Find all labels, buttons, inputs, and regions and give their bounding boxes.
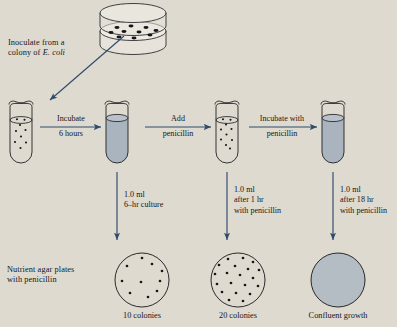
step-label-add-line2: penicillin (147, 129, 209, 139)
step-sublabel-incubate-penicillin: penicillin (249, 129, 315, 139)
sample-label-1hr: 1.0 ml after 1 hr with penicillin (234, 185, 281, 216)
step-label-incubate-line1: Incubate (43, 114, 99, 124)
inoculate-label-line1: Inoculate from a (8, 38, 65, 48)
step-label-add-line1: Add (147, 114, 209, 124)
plate-caption-confluent: Confluent growth (288, 311, 388, 320)
step-label-incpen-line2: penicillin (249, 129, 315, 139)
inoculate-label-line2: colony of E. coli (8, 48, 65, 58)
step-label-incpen-line1: Incubate with (249, 114, 315, 124)
step-sublabel-add-penicillin: penicillin (147, 129, 209, 139)
inoculate-label: Inoculate from a colony of E. coli (8, 38, 65, 59)
nutrient-agar-plates-label: Nutrient agar plates with penicillin (7, 265, 74, 286)
sample-18hr-line3: with penicillin (340, 206, 387, 216)
sample-6hr-line1: 1.0 ml (124, 190, 163, 200)
sample-label-6hr: 1.0 ml 6–hr culture (124, 190, 163, 211)
plate-caption-10: 10 colonies (102, 311, 182, 320)
plates-label-line1: Nutrient agar plates (7, 265, 74, 275)
step-label-incubate-penicillin: Incubate with (249, 114, 315, 124)
tube-penicillin-added (215, 101, 239, 163)
tube-after-penicillin (321, 101, 345, 163)
plate-20-colonies (211, 253, 265, 307)
step-label-incubate: Incubate (43, 114, 99, 124)
step-label-incubate-line2: 6 hours (43, 129, 99, 139)
sample-label-18hr: 1.0 ml after 18 hr with penicillin (340, 185, 387, 216)
sample-1hr-line2: after 1 hr (234, 195, 281, 205)
tube-inoculated (9, 101, 33, 163)
plate-1-colonies (121, 257, 164, 299)
tube-6hr-culture (105, 101, 129, 163)
sample-18hr-line2: after 18 hr (340, 195, 387, 205)
plate-10-colonies (115, 253, 169, 307)
sample-1hr-line1: 1.0 ml (234, 185, 281, 195)
source-petri-dish (100, 4, 166, 55)
plate-caption-20: 20 colonies (198, 311, 278, 320)
plate-confluent (311, 253, 365, 307)
sample-6hr-line2: 6–hr culture (124, 200, 163, 210)
sample-18hr-line1: 1.0 ml (340, 185, 387, 195)
plates-label-line2: with penicillin (7, 275, 74, 285)
plate-2-colonies (214, 257, 261, 303)
sample-1hr-line3: with penicillin (234, 206, 281, 216)
step-label-add-penicillin: Add (147, 114, 209, 124)
step-sublabel-incubate: 6 hours (43, 129, 99, 139)
